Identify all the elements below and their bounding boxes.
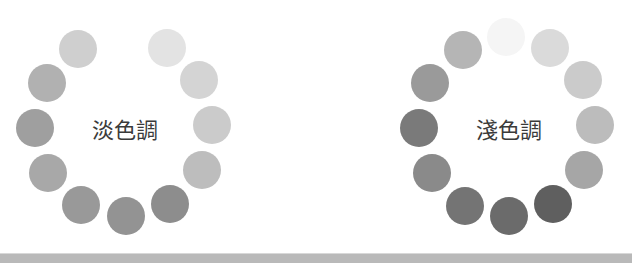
- pale-tone-label: 淡色調: [92, 112, 158, 144]
- light-tone-label: 淺色調: [476, 112, 542, 144]
- color-swatch-dot: [564, 61, 602, 99]
- color-swatch-dot: [531, 29, 569, 67]
- color-swatch-dot: [28, 64, 66, 102]
- color-swatch-dot: [576, 106, 614, 144]
- color-swatch-dot: [16, 109, 54, 147]
- color-swatch-dot: [29, 154, 67, 192]
- color-swatch-dot: [151, 185, 189, 223]
- color-swatch-dot: [183, 151, 221, 189]
- color-swatch-dot: [446, 187, 484, 225]
- color-swatch-dot: [400, 109, 438, 147]
- color-swatch-dot: [487, 18, 525, 56]
- color-swatch-dot: [490, 197, 528, 235]
- color-swatch-dot: [565, 151, 603, 189]
- color-swatch-dot: [411, 64, 449, 102]
- color-swatch-dot: [59, 30, 97, 68]
- color-swatch-dot: [193, 106, 231, 144]
- color-swatch-dot: [107, 197, 145, 235]
- color-swatch-dot: [534, 185, 572, 223]
- color-swatch-dot: [444, 31, 482, 69]
- color-swatch-dot: [62, 186, 100, 224]
- color-swatch-dot: [413, 154, 451, 192]
- bottom-band: [0, 253, 632, 263]
- color-swatch-dot: [148, 29, 186, 67]
- color-swatch-dot: [180, 61, 218, 99]
